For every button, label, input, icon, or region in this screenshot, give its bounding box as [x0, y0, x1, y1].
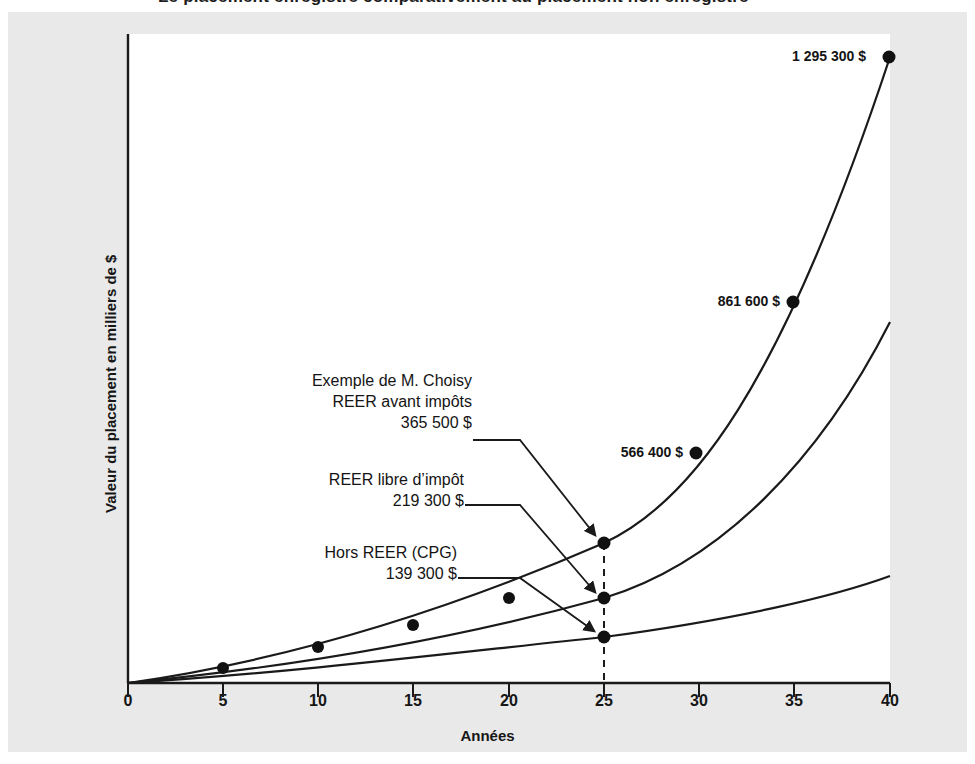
marker-year-25-mid — [598, 592, 611, 605]
marker-year-25-top — [598, 537, 611, 550]
curve-reer-avant-impots — [128, 57, 890, 683]
curve-reer-libre-impot — [128, 322, 890, 683]
value-label-year-40: 1 295 300 $ — [676, 48, 866, 64]
callout3-line2: 139 300 $ — [246, 564, 457, 585]
callout2-line2: 219 300 $ — [246, 491, 464, 512]
marker-year-10 — [312, 641, 324, 653]
leader-reer-libre-impot — [465, 505, 595, 592]
marker-year-5 — [217, 662, 229, 674]
callout2-line1: REER libre d’impôt — [246, 470, 464, 491]
figure-root: Le placement enregistré comparativement … — [0, 0, 975, 764]
callout-reer-avant-impots: Exemple de M. Choisy REER avant impôts 3… — [246, 371, 472, 433]
callout1-line1: Exemple de M. Choisy — [246, 371, 472, 392]
marker-year-35 — [787, 296, 800, 309]
callout-leader-lines — [458, 440, 595, 631]
value-label-year-30: 566 400 $ — [523, 444, 683, 460]
callout-reer-libre-impot: REER libre d’impôt 219 300 $ — [246, 470, 464, 512]
marker-year-30 — [690, 447, 703, 460]
leader-hors-reer-cpg — [458, 578, 594, 631]
callout1-line2: REER avant impôts — [246, 392, 472, 413]
callout1-line3: 365 500 $ — [246, 413, 472, 434]
value-label-year-35: 861 600 $ — [620, 293, 780, 309]
chart-svg — [0, 0, 975, 764]
callout3-line1: Hors REER (CPG) — [246, 543, 457, 564]
x-tick-marks — [128, 683, 890, 697]
marker-year-25-low — [598, 631, 611, 644]
marker-year-40 — [883, 51, 896, 64]
marker-year-20 — [503, 592, 515, 604]
marker-year-15 — [407, 619, 419, 631]
callout-hors-reer-cpg: Hors REER (CPG) 139 300 $ — [246, 543, 457, 585]
